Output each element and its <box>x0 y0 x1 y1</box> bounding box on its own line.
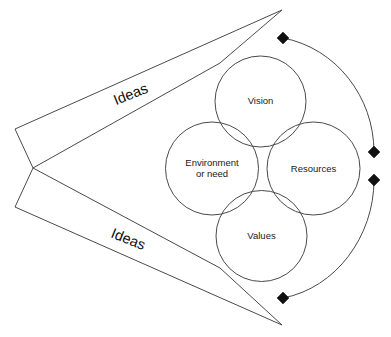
upper-ideas-arrow-shape <box>15 10 282 168</box>
lower-ideas-arrow-shape <box>15 168 282 325</box>
diagram-canvas: Vision Environment or need Resources Val… <box>0 0 391 337</box>
diamond-marker-right-upper <box>368 146 380 158</box>
diamond-marker-bottom <box>277 292 289 304</box>
circle-label-environment-line1: Environment <box>185 157 239 168</box>
circle-label-environment-line2: or need <box>196 168 228 179</box>
diamond-marker-top <box>277 32 289 44</box>
lower-ideas-label: Ideas <box>109 225 148 253</box>
circle-label-resources: Resources <box>291 163 337 174</box>
diagram-svg: Vision Environment or need Resources Val… <box>0 0 391 337</box>
circle-label-values: Values <box>247 230 276 241</box>
upper-arc <box>283 38 374 152</box>
diamond-marker-right-lower <box>368 174 380 186</box>
lower-arc <box>283 180 374 298</box>
circle-label-vision: Vision <box>248 95 274 106</box>
